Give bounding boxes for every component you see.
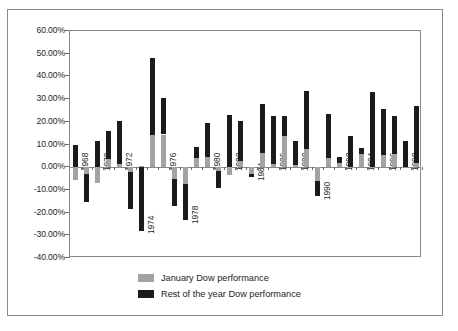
x-axis-tick-mark [334,167,335,170]
bar-segment-rest-of-year [106,131,111,159]
y-axis-tick-label: 0.00% [41,161,65,171]
bar-segment-january [205,157,210,167]
plot-area-wrapper: 60.00%50.00%40.00%30.00%20.00%10.00%0.00… [8,10,444,262]
x-axis-tick-mark [356,167,357,170]
bar-segment-rest-of-year [337,157,342,163]
bar-group [381,31,386,256]
bar-group [117,31,122,256]
bar-segment-rest-of-year [414,106,419,163]
bar-group [403,31,408,256]
bar-segment-january [172,167,177,178]
bar-segment-rest-of-year [128,172,133,209]
x-axis-tick-mark [158,167,159,170]
bar-segment-rest-of-year [84,174,89,202]
bar-segment-january [150,135,155,167]
bar-segment-rest-of-year [403,141,408,167]
bar-segment-rest-of-year [73,145,78,167]
bar-group [348,31,353,256]
bar-group [194,31,199,256]
bar-segment-rest-of-year [183,184,188,221]
bar-segment-january [260,153,265,167]
bar-segment-rest-of-year [205,123,210,157]
bar-segment-rest-of-year [315,181,320,197]
bar-group [172,31,177,256]
x-axis-tick-mark [312,167,313,170]
bar-segment-january [238,161,243,167]
bar-segment-january [106,159,111,167]
bar-segment-january [183,167,188,184]
y-axis-tick-label: 30.00% [36,93,65,103]
bar-segment-rest-of-year [227,115,232,167]
bar-segment-january [315,167,320,180]
legend-swatch-january [138,274,154,282]
bar-group [293,31,298,256]
bar-segment-rest-of-year [293,141,298,165]
bar-segment-rest-of-year [348,136,353,167]
y-axis-tick-label: -40.00% [34,252,65,262]
bar-segment-rest-of-year [326,114,331,158]
bar-group [161,31,166,256]
legend-item-rest-of-year: Rest of the year Dow performance [138,288,301,300]
bar-segment-january [249,167,254,174]
bar-segment-rest-of-year [359,148,364,154]
bar-group [150,31,155,256]
bar-group [106,31,111,256]
bar-group [216,31,221,256]
bar-group [227,31,232,256]
x-axis-tick-mark [268,167,269,170]
legend-item-january: January Dow performance [138,272,269,284]
bar-segment-rest-of-year [150,58,155,135]
x-axis-tick-mark [92,167,93,170]
bar-segment-january [304,149,309,167]
legend-label-january: January Dow performance [161,273,269,283]
bar-segment-rest-of-year [249,174,254,177]
bar-segment-rest-of-year [95,141,100,167]
bar-segment-rest-of-year [304,91,309,149]
y-axis-labels: 60.00%50.00%40.00%30.00%20.00%10.00%0.00… [8,30,65,257]
bar-group [282,31,287,256]
bar-segment-rest-of-year [271,116,276,163]
x-axis-tick-mark [290,167,291,170]
bar-segment-january [73,167,78,179]
y-axis-tick-label: 40.00% [36,70,65,80]
bar-group [249,31,254,256]
x-axis-tick-mark [246,167,247,170]
bar-segment-january [84,167,89,174]
bar-segment-rest-of-year [238,121,243,161]
bar-segment-rest-of-year [172,179,177,207]
bar-group [370,31,375,256]
bar-group [183,31,188,256]
bar-group [84,31,89,256]
legend-swatch-rest-of-year [138,290,154,298]
bar-group [315,31,320,256]
bar-group [238,31,243,256]
bar-group [95,31,100,256]
bar-group [73,31,78,256]
plot-area: 1968197019721974197619781980198219841986… [69,30,421,257]
bar-segment-rest-of-year [381,109,386,155]
bar-group [128,31,133,256]
bar-group [359,31,364,256]
x-axis-tick-mark [224,167,225,170]
bar-group [205,31,210,256]
bar-group [304,31,309,256]
x-axis-tick-mark [422,167,423,170]
bar-segment-january [337,163,342,167]
bar-segment-january [117,164,122,167]
bar-segment-january [359,154,364,168]
bar-segment-rest-of-year [216,171,221,188]
bar-segment-january [326,158,331,167]
x-axis-tick-mark [114,167,115,170]
bar-segment-january [293,165,298,167]
bar-segment-rest-of-year [139,167,144,231]
bar-group [414,31,419,256]
y-axis-tick-label: -20.00% [34,207,65,217]
bar-segment-rest-of-year [260,104,265,153]
bar-segment-rest-of-year [117,121,122,164]
chart-frame: 60.00%50.00%40.00%30.00%20.00%10.00%0.00… [7,9,443,316]
bar-segment-rest-of-year [194,147,199,157]
y-axis-tick-label: 50.00% [36,48,65,58]
y-axis-tick-label: -30.00% [34,229,65,239]
bar-group [139,31,144,256]
bar-segment-january [370,167,375,168]
